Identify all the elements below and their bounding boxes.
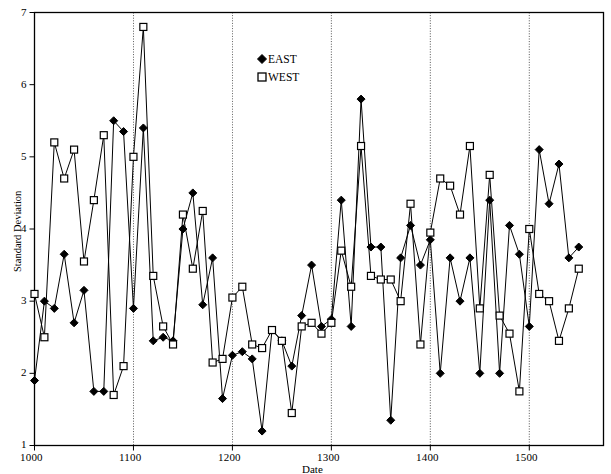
marker-west [51, 139, 58, 146]
y-tick-label-1: 1 [21, 439, 27, 450]
x-axis-title: Date [302, 463, 323, 474]
marker-west [41, 334, 48, 341]
marker-east [288, 362, 296, 370]
marker-west [278, 337, 285, 344]
marker-east [456, 297, 464, 305]
marker-west [130, 153, 137, 160]
marker-west [170, 341, 177, 348]
marker-west [348, 283, 355, 290]
x-tick-label-1300: 1300 [317, 452, 340, 463]
marker-east [486, 196, 494, 204]
y-tick-label-3: 3 [21, 295, 27, 306]
x-tick-label-1200: 1200 [218, 452, 241, 463]
marker-west [219, 355, 226, 362]
marker-west [358, 143, 365, 150]
marker-east [159, 333, 167, 341]
marker-west [71, 146, 78, 153]
series-lines [35, 27, 579, 431]
marker-east [466, 254, 474, 262]
marker-east [199, 301, 207, 309]
marker-west [506, 330, 513, 337]
marker-west [61, 175, 68, 182]
marker-west [546, 298, 553, 305]
marker-east [426, 236, 434, 244]
marker-east [100, 387, 108, 395]
y-tick-label-2: 2 [21, 367, 27, 378]
vertical-rule-group [133, 13, 529, 446]
marker-east [397, 254, 405, 262]
marker-west [457, 211, 464, 218]
marker-east [129, 304, 137, 312]
x-tick-label-1500: 1500 [515, 452, 538, 463]
marker-east [317, 322, 325, 330]
legend-label-east: EAST [268, 53, 297, 65]
marker-west [120, 363, 127, 370]
marker-east [60, 250, 68, 258]
y-axis-title: Standard Deviation [12, 191, 23, 272]
y-tick-label-6: 6 [21, 79, 27, 90]
marker-west [397, 298, 404, 305]
marker-west [318, 330, 325, 337]
marker-east [377, 243, 385, 251]
marker-east [228, 351, 236, 359]
marker-west [496, 312, 503, 319]
marker-east [80, 286, 88, 294]
marker-west [249, 341, 256, 348]
marker-west [110, 391, 117, 398]
marker-west [308, 319, 315, 326]
marker-west [189, 265, 196, 272]
marker-east [535, 146, 543, 154]
x-tick-label-1400: 1400 [416, 452, 439, 463]
marker-east [505, 221, 513, 229]
marker-west [338, 247, 345, 254]
marker-east [90, 387, 98, 395]
marker-east [189, 189, 197, 197]
marker-west [229, 294, 236, 301]
marker-west [160, 323, 167, 330]
marker-west [367, 272, 374, 279]
series-line-east [35, 99, 579, 431]
marker-west [565, 305, 572, 312]
marker-east [347, 322, 355, 330]
marker-east [209, 254, 217, 262]
axes-frame [35, 13, 604, 446]
x-tick-label-1000: 1000 [20, 452, 43, 463]
legend-marker-west [258, 73, 266, 81]
marker-west [328, 319, 335, 326]
marker-east [70, 319, 78, 327]
marker-west [199, 207, 206, 214]
marker-east [258, 427, 266, 435]
marker-west [387, 276, 394, 283]
marker-west [555, 337, 562, 344]
marker-east [337, 196, 345, 204]
marker-east [40, 297, 48, 305]
marker-west [437, 175, 444, 182]
plot-frame [35, 13, 604, 446]
marker-east [31, 377, 39, 385]
marker-east [357, 95, 365, 103]
marker-west [209, 359, 216, 366]
marker-west [239, 283, 246, 290]
x-tick-label-1100: 1100 [119, 452, 141, 463]
marker-east [436, 369, 444, 377]
legend-label-west: WEST [268, 71, 299, 83]
marker-west [536, 290, 543, 297]
marker-west [476, 305, 483, 312]
marker-west [150, 272, 157, 279]
marker-east [525, 322, 533, 330]
marker-west [288, 410, 295, 417]
x-axis-ticks [35, 446, 530, 451]
legend-markers [258, 55, 267, 82]
marker-west [575, 265, 582, 272]
marker-east [50, 304, 58, 312]
marker-east [416, 261, 424, 269]
marker-west [526, 226, 533, 233]
marker-west [516, 388, 523, 395]
marker-east [149, 337, 157, 345]
marker-east [248, 355, 256, 363]
marker-west [377, 276, 384, 283]
chart-figure: 7 6 5 4 3 2 1 1000 1100 1200 1300 1400 1… [0, 0, 611, 474]
marker-west [486, 171, 493, 178]
marker-west [407, 200, 414, 207]
legend-marker-east [258, 55, 267, 64]
